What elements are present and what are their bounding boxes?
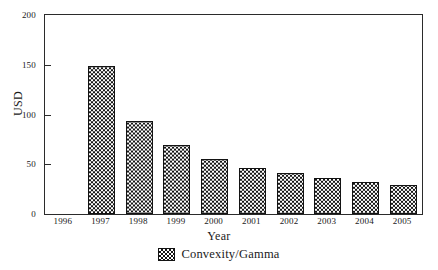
x-axis-tick-label-2000: 2000 [204,216,223,226]
x-axis-tick-label-1998: 1998 [129,216,148,226]
bar-2002 [277,173,304,214]
x-axis-tick-label-2003: 2003 [317,216,336,226]
y-axis-tick-label: 0 [31,209,36,219]
chart-legend: Convexity/Gamma [0,247,438,262]
x-axis-title: Year [0,229,438,244]
y-axis-title: USD [11,74,26,134]
bar-2000 [201,159,228,214]
x-axis-tick-label-2005: 2005 [393,216,412,226]
x-axis-tick-label-2004: 2004 [355,216,374,226]
legend-label-convexity-gamma: Convexity/Gamma [181,247,279,262]
bar-1997 [88,66,115,214]
x-axis-tick-label-2001: 2001 [242,216,261,226]
x-axis-tick-label-2002: 2002 [280,216,299,226]
bar-2001 [239,168,266,214]
y-axis-tick-label: 100 [22,110,36,120]
x-axis-tick-label-1996: 1996 [53,216,72,226]
x-axis-tick-label-1997: 1997 [91,216,110,226]
y-axis-tick [45,164,51,165]
bar-chart-figure: USD 050100150200 19961997199819992000200… [0,0,438,270]
plot-area: 050100150200 [44,14,423,215]
y-axis-tick-label: 50 [27,159,36,169]
x-axis-tick-label-1999: 1999 [167,216,186,226]
bar-2004 [352,182,379,214]
legend-swatch-convexity-gamma-icon [158,248,175,261]
bar-1999 [163,145,190,214]
bar-2003 [314,178,341,214]
y-axis-tick-label: 150 [22,60,36,70]
y-axis-tick [45,65,51,66]
y-axis-tick-label: 200 [22,10,36,20]
y-axis-tick [45,115,51,116]
bar-1998 [126,121,153,214]
bar-2005 [390,185,417,214]
